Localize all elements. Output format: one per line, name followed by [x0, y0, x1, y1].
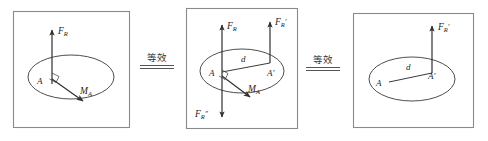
- label-point-a-prime: A′: [266, 68, 275, 78]
- panel-left: [14, 12, 130, 128]
- label-point-a: A: [375, 78, 382, 88]
- label-point-a: A: [36, 76, 43, 86]
- label-distance: d: [241, 54, 246, 64]
- equivalence-connector-2: 等效: [306, 55, 340, 71]
- figure-canvas: FR A MA FR FR′ FR″ d A A′ MA: [0, 0, 488, 141]
- label-force-prime: FR′: [437, 22, 450, 33]
- equals-sign-icon: [306, 67, 340, 71]
- label-distance: d: [406, 62, 411, 72]
- panel-right-border: [354, 14, 474, 128]
- panel-right: [354, 14, 474, 128]
- label-point-a-prime: A′: [427, 71, 436, 81]
- equivalence-text: 等效: [140, 53, 174, 63]
- label-point-a: A: [208, 68, 215, 78]
- label-force-prime: FR′: [274, 17, 287, 28]
- equivalence-text: 等效: [306, 55, 340, 65]
- equivalence-connector-1: 等效: [140, 53, 174, 69]
- figure-root: FR A MA FR FR′ FR″ d A A′ MA: [0, 0, 488, 141]
- equals-sign-icon: [140, 65, 174, 69]
